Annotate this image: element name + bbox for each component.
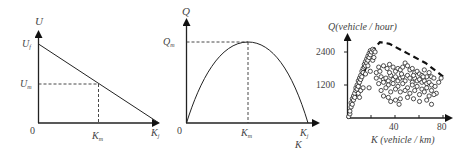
data-point xyxy=(387,71,391,75)
data-point xyxy=(425,98,429,102)
data-point xyxy=(357,95,361,99)
kj-label: Kj xyxy=(150,127,160,139)
data-point xyxy=(389,90,393,94)
data-point xyxy=(391,65,395,69)
data-point xyxy=(401,65,405,69)
km-label: Km xyxy=(240,127,253,139)
data-point xyxy=(377,82,381,86)
data-point xyxy=(405,95,409,99)
data-point xyxy=(437,80,441,84)
data-point xyxy=(397,102,401,106)
data-point xyxy=(384,86,388,90)
speed-density-chart: U Uf Um 0 Km Kj xyxy=(20,15,160,142)
data-point xyxy=(393,87,397,91)
data-point xyxy=(379,88,383,92)
data-point xyxy=(408,91,412,95)
data-point xyxy=(374,76,378,80)
x-tick-label-40: 40 xyxy=(389,122,399,132)
observation-points xyxy=(347,47,444,119)
data-point xyxy=(356,84,360,88)
data-point xyxy=(413,88,417,92)
data-point xyxy=(422,90,426,94)
data-point xyxy=(386,79,390,83)
data-point xyxy=(389,99,393,103)
flow-density-chart: Q Qm 0 Km Kj K xyxy=(163,5,316,150)
data-point xyxy=(381,94,385,98)
x-axis-label: K (vehicle / km) xyxy=(370,134,435,146)
data-point xyxy=(381,80,385,84)
data-point xyxy=(411,97,415,101)
data-point xyxy=(353,95,357,99)
data-point xyxy=(363,72,367,76)
data-point xyxy=(348,109,352,113)
data-point xyxy=(391,82,395,86)
data-point xyxy=(425,86,429,90)
y-axis-label: U xyxy=(35,15,44,27)
data-point xyxy=(439,76,443,80)
data-point xyxy=(410,83,414,87)
data-point xyxy=(401,82,405,86)
data-point xyxy=(417,93,421,97)
data-point xyxy=(378,69,382,73)
flow-density-curve xyxy=(187,42,309,123)
uf-label: Uf xyxy=(22,38,32,50)
observed-flow-density-chart: Q(vehicle / hour) 2400 1200 40 80 K (veh… xyxy=(316,21,449,146)
data-point xyxy=(368,69,372,73)
data-point xyxy=(393,98,397,102)
figure-panels: U Uf Um 0 Km Kj Q Qm 0 Km Kj K Q(vehicle… xyxy=(0,0,470,154)
x-axis-label: K xyxy=(294,139,303,150)
data-point xyxy=(385,66,389,70)
data-point xyxy=(386,95,390,99)
y-tick-label-2400: 2400 xyxy=(316,47,335,57)
data-point xyxy=(405,64,409,68)
data-point xyxy=(422,68,426,72)
data-point xyxy=(360,75,364,79)
kj-label: Kj xyxy=(299,127,309,139)
data-point xyxy=(432,93,436,97)
data-point xyxy=(366,64,370,68)
origin-label: 0 xyxy=(177,125,182,136)
qm-label: Qm xyxy=(163,36,175,48)
y-axis-label: Q(vehicle / hour) xyxy=(328,21,398,33)
data-point xyxy=(433,84,437,88)
data-point xyxy=(421,75,425,79)
data-point xyxy=(393,75,397,79)
data-point xyxy=(432,76,436,80)
km-label: Km xyxy=(91,130,104,142)
data-point xyxy=(429,88,433,92)
data-point xyxy=(410,66,414,70)
data-point xyxy=(399,72,403,76)
um-label: Um xyxy=(20,78,32,90)
data-point xyxy=(403,88,407,92)
data-point xyxy=(373,50,377,54)
origin-label: 0 xyxy=(30,125,35,136)
data-point xyxy=(398,90,402,94)
y-tick-label-1200: 1200 xyxy=(316,80,335,90)
data-point xyxy=(427,94,431,98)
data-point xyxy=(377,65,381,69)
x-tick-label-80: 80 xyxy=(437,122,447,132)
data-point xyxy=(398,97,402,101)
data-point xyxy=(411,73,415,77)
data-point xyxy=(415,84,419,88)
data-point xyxy=(417,99,421,103)
data-point xyxy=(429,102,433,106)
data-point xyxy=(350,102,354,106)
data-point xyxy=(427,71,431,75)
data-point xyxy=(361,86,365,90)
data-point xyxy=(372,55,376,59)
y-axis-label: Q xyxy=(182,5,190,17)
data-point xyxy=(367,86,371,90)
